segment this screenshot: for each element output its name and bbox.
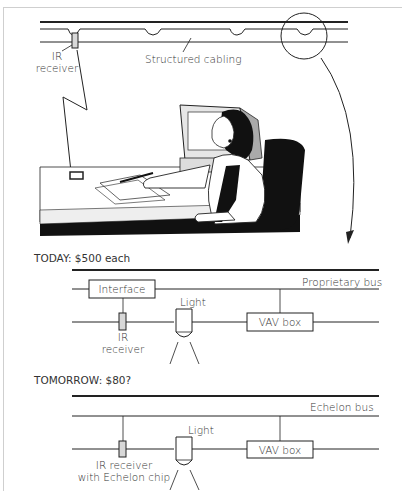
label-receiver: receiver [36,62,79,74]
tomorrow-vav-label: VAV box [259,444,302,456]
today-vav-label: VAV box [259,316,302,328]
today-light-label: Light [180,296,206,308]
tomorrow-ir-line1: IR receiver [96,459,153,471]
arrow-head-icon [346,230,354,244]
tomorrow-heading: TOMORROW: $80? [33,374,131,386]
label-ir: IR [52,50,62,62]
structured-cabling [40,22,348,42]
tomorrow-ir-line2: with Echelon chip [78,471,170,483]
tomorrow-light-label: Light [188,424,214,436]
zoom-circle [281,13,327,59]
remote-device [70,172,83,179]
today-ir-receiver [119,313,126,330]
tomorrow-bus-label: Echelon bus [310,401,374,413]
curved-arrow [321,58,354,238]
today-ir-line2: receiver [102,343,145,355]
label-structured-cabling: Structured cabling [145,53,242,65]
today-heading: TODAY: $500 each [33,252,130,264]
today-ir-line1: IR [118,331,128,343]
tomorrow-ir-receiver [119,441,126,457]
today-light-fixture [170,309,199,364]
tomorrow-light-fixture [170,437,199,490]
today-interface-label: Interface [98,283,145,295]
today-bus-label: Proprietary bus [302,276,382,288]
